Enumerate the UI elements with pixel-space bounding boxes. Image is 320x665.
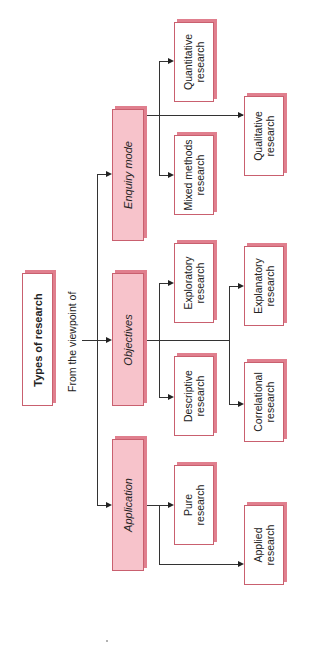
node-label: Exploratory [182, 256, 194, 309]
node-quantitative-research: Quantitativeresearch [174, 22, 214, 102]
category-label: Enquiry mode [122, 141, 134, 209]
node-label: Explanatory [252, 258, 264, 313]
connector [159, 61, 160, 175]
node-label: research [194, 34, 206, 90]
node-label: research [264, 525, 276, 566]
connector [159, 283, 160, 398]
node-label: research [194, 139, 206, 210]
node-descriptive-research: Descriptiveresearch [174, 356, 214, 436]
node-pure-research: Pureresearch [174, 465, 214, 545]
connector [159, 564, 239, 565]
root-node-types-of-research: Types of research [22, 273, 53, 406]
node-label: Descriptive [182, 370, 194, 422]
node-label: research [194, 256, 206, 309]
category-label: Application [122, 478, 134, 532]
node-label: Pure [182, 485, 194, 526]
connector-application [97, 505, 106, 506]
node-label: research [264, 111, 276, 161]
node-label: Applied [252, 525, 264, 566]
node-label: research [194, 370, 206, 422]
connector-enquiry [97, 174, 106, 175]
node-label: research [194, 485, 206, 526]
connector [229, 286, 230, 404]
node-label: Qualitative [252, 111, 264, 161]
category-objectives: Objectives [112, 273, 144, 406]
node-label: Correlational [252, 372, 264, 432]
node-applied-research: Appliedresearch [244, 505, 284, 585]
node-label: research [264, 258, 276, 313]
connector-root [82, 340, 106, 341]
category-application: Application [112, 439, 144, 571]
node-label: Quantitative [182, 34, 194, 90]
connector [159, 505, 160, 564]
node-exploratory-research: Exploratoryresearch [174, 243, 214, 323]
category-label: Objectives [122, 314, 134, 365]
node-explanatory-research: Explanatoryresearch [244, 246, 284, 326]
subtitle-label: From the viewpoint of [66, 292, 78, 392]
node-label: Mixed methods [182, 139, 194, 210]
category-enquiry-mode: Enquiry mode [112, 109, 144, 241]
node-mixed-methods-research: Mixed methodsresearch [174, 135, 214, 215]
node-correlational-research: Correlationalresearch [244, 362, 284, 442]
speck [106, 640, 108, 642]
root-title: Types of research [32, 293, 44, 386]
node-qualitative-research: Qualitativeresearch [244, 96, 284, 176]
connector [147, 115, 243, 116]
connector [147, 505, 169, 506]
node-label: research [264, 372, 276, 432]
